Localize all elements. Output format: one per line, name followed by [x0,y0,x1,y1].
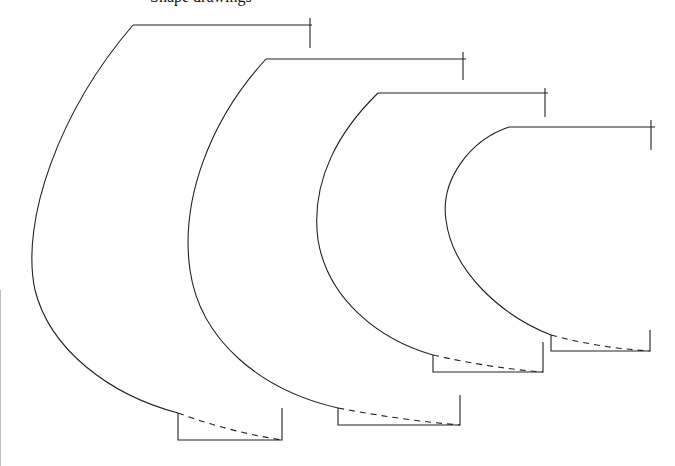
diagram-canvas [0,0,675,466]
shape-1-curve [32,25,178,413]
shape-4 [445,120,655,351]
shape-1-box [178,408,282,440]
shape-2 [188,52,466,425]
shape-3-box [433,342,543,372]
shape-3-curve [317,93,433,355]
shape-1 [32,18,312,440]
shape-1-dashed [178,413,282,440]
shape-2-box [338,395,460,425]
shape-4-box [551,330,650,351]
shape-4-dashed [551,335,650,351]
shape-2-dashed [338,408,460,425]
shape-3-dashed [433,355,543,372]
shape-2-curve [188,59,338,408]
shape-3 [317,88,548,372]
shape-4-curve [445,127,551,335]
